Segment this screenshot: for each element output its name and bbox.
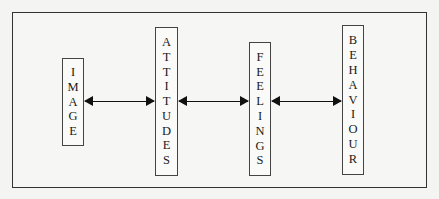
node-image: IMAGE bbox=[62, 58, 84, 146]
node-label: IMAGE bbox=[67, 65, 78, 139]
arrow-feelings-behaviour bbox=[272, 101, 341, 102]
node-behaviour: BEHAVIOUR bbox=[342, 25, 364, 175]
node-label: FEELINGS bbox=[255, 50, 264, 168]
arrow-image-attitudes bbox=[85, 101, 154, 102]
node-label: BEHAVIOUR bbox=[348, 33, 357, 166]
node-label: ATTITUDES bbox=[162, 35, 171, 168]
node-feelings: FEELINGS bbox=[249, 42, 271, 176]
node-attitudes: ATTITUDES bbox=[155, 27, 178, 176]
arrow-attitudes-feelings bbox=[179, 101, 248, 102]
